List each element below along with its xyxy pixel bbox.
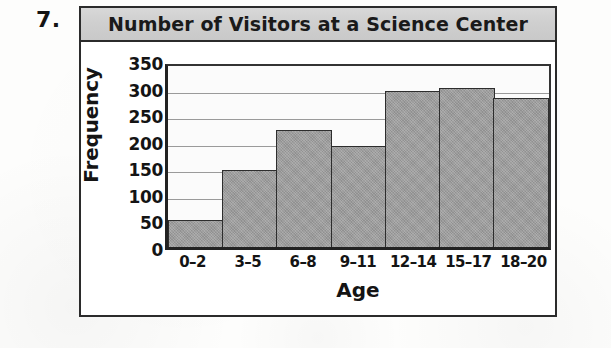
y-axis-tick-label: 350 [111, 54, 163, 74]
bar-series [168, 66, 549, 247]
y-axis-tick-label: 50 [111, 213, 163, 233]
chart-title-band: Number of Visitors at a Science Center [81, 8, 555, 42]
y-axis-tick-labels: 350300250200150100500 [111, 42, 163, 317]
plot-area [165, 64, 551, 250]
y-axis-tick-label: 0 [111, 240, 163, 260]
x-axis-tick-label: 12–14 [386, 253, 441, 271]
bar [331, 146, 387, 247]
x-axis-title: Age [165, 278, 551, 302]
y-axis-tick-label: 100 [111, 187, 163, 207]
y-axis-tick-label: 300 [111, 81, 163, 101]
chart-title: Number of Visitors at a Science Center [108, 13, 528, 35]
y-axis-tick-label: 200 [111, 134, 163, 154]
bar [168, 220, 224, 247]
bar [385, 91, 441, 247]
x-axis-tick-label: 18–20 [496, 253, 551, 271]
y-axis-title: Frequency [78, 50, 104, 200]
x-axis-tick-label: 3–5 [220, 253, 275, 271]
bar [276, 130, 332, 247]
chart-frame: Number of Visitors at a Science Center F… [79, 6, 557, 317]
exercise-number: 7. [36, 7, 61, 32]
bar [439, 88, 495, 247]
bar [222, 170, 278, 247]
y-axis-tick-label: 250 [111, 107, 163, 127]
x-axis-tick-label: 0–2 [165, 253, 220, 271]
x-axis-tick-label: 15–17 [441, 253, 496, 271]
bar [493, 98, 549, 247]
y-axis-tick-label: 150 [111, 160, 163, 180]
x-axis-tick-labels: 0–23–56–89–1112–1415–1718–20 [165, 253, 551, 271]
x-axis-tick-label: 9–11 [330, 253, 385, 271]
x-axis-tick-label: 6–8 [275, 253, 330, 271]
plot-region: Frequency 350300250200150100500 0–23–56–… [81, 42, 555, 317]
